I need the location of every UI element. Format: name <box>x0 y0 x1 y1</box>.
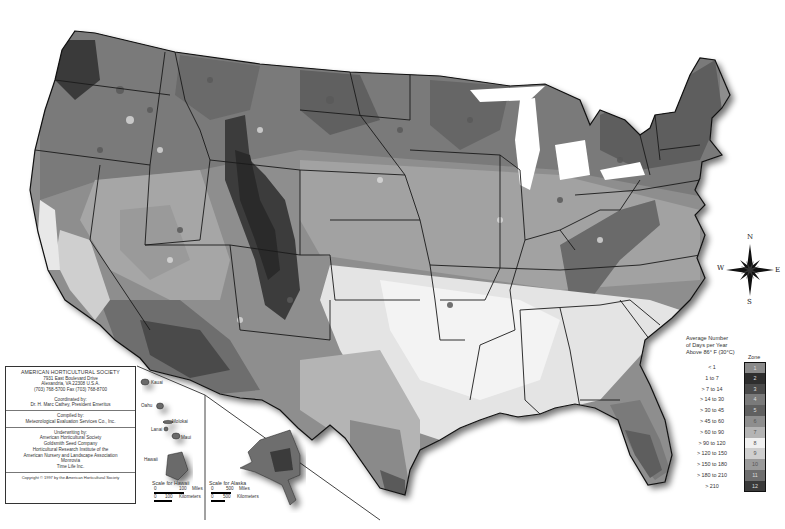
legend-range: > 30 to 45 <box>686 407 738 413</box>
compass-north: N <box>747 233 753 241</box>
legend-row-zone-8: > 90 to 1208 <box>686 438 785 449</box>
compass-south: S <box>747 298 752 306</box>
legend-title-line: Average Number <box>686 335 746 342</box>
legend-title-line: of Days per Year <box>686 342 746 349</box>
legend-swatch: 3 <box>744 384 766 395</box>
legend-row-zone-4: > 14 to 304 <box>686 394 785 405</box>
legend-range: > 60 to 90 <box>686 429 738 435</box>
island-label-maui: Maui <box>181 435 191 440</box>
legend-range: > 90 to 120 <box>686 440 738 446</box>
legend-swatch: 1 <box>744 362 766 373</box>
compiled-by: Meteorological Evaluation Services Co., … <box>8 419 133 425</box>
legend-row-zone-10: > 150 to 18010 <box>686 459 785 470</box>
legend-range: > 45 to 60 <box>686 418 738 424</box>
legend-range: > 150 to 180 <box>686 461 738 467</box>
legend-row-zone-6: > 45 to 606 <box>686 416 785 427</box>
legend-swatch: 10 <box>744 459 766 470</box>
credits-box: AMERICAN HORTICULTURAL SOCIETY 7931 East… <box>5 366 136 504</box>
legend-swatch: 7 <box>744 427 766 438</box>
scale-tick: 500 <box>226 486 234 491</box>
legend-swatch: 11 <box>744 470 766 481</box>
scale-bar <box>211 500 225 502</box>
scale-tick: 0 <box>211 486 214 491</box>
compass-east: E <box>775 266 780 274</box>
legend-range: < 1 <box>686 364 738 370</box>
legend-row-zone-9: > 120 to 1509 <box>686 448 785 459</box>
org-name: AMERICAN HORTICULTURAL SOCIETY <box>8 369 133 376</box>
compass-west: W <box>717 264 724 272</box>
legend-range: > 210 <box>686 483 738 489</box>
legend-swatch: 12 <box>744 481 766 492</box>
legend-row-zone-5: > 30 to 455 <box>686 405 785 416</box>
legend-row-zone-3: > 7 to 143 <box>686 384 785 395</box>
legend-zone-header: Zone <box>748 354 760 360</box>
copyright: Copyright © 1997 by the American Horticu… <box>8 475 133 480</box>
legend-range: > 14 to 30 <box>686 396 738 402</box>
legend-rows: < 111 to 72> 7 to 143> 14 to 304> 30 to … <box>686 362 785 492</box>
legend-title: Average Number of Days per Year Above 86… <box>686 335 746 356</box>
island-label-kauai: Kauai <box>151 380 163 385</box>
coordinated-by: Dr. H. Marc Cathey, President Emeritus <box>8 402 133 408</box>
legend-row-zone-12: > 21012 <box>686 481 785 492</box>
alaska-scale: Scale for Alaska 0 500 Miles 0 500 Kilom… <box>209 480 246 502</box>
island-label-molokai: Molokai <box>172 419 188 424</box>
legend-swatch: 6 <box>744 416 766 427</box>
legend-swatch: 2 <box>744 373 766 384</box>
compass-rose: N S W E <box>720 236 780 304</box>
legend-row-zone-11: > 180 to 21011 <box>686 470 785 481</box>
legend-swatch: 5 <box>744 405 766 416</box>
legend-swatch: 9 <box>744 448 766 459</box>
scale-unit: Kilometers <box>237 494 259 499</box>
scale-tick: 100 <box>179 486 187 491</box>
island-label-oahu: Oahu <box>141 403 152 408</box>
legend-title-line: Above 86° F (30°C) <box>686 349 746 356</box>
scale-tick: 0 <box>154 486 157 491</box>
scale-unit: Kilometers <box>179 494 201 499</box>
scale-tick: 500 <box>223 494 231 499</box>
scale-unit: Miles <box>192 486 203 491</box>
legend-swatch: 4 <box>744 394 766 405</box>
legend-range: > 120 to 150 <box>686 450 738 456</box>
scale-tick: 100 <box>165 494 173 499</box>
island-label-hawaii: Hawaii <box>144 457 158 462</box>
legend-range: > 180 to 210 <box>686 472 738 478</box>
legend-swatch: 8 <box>744 438 766 449</box>
scale-tick: 0 <box>211 494 214 499</box>
island-label-lanai: Lanai <box>151 427 162 432</box>
legend-row-zone-1: < 11 <box>686 362 785 373</box>
hawaii-scale: Scale for Hawaii 0 100 Miles 0 100 Kilom… <box>152 480 189 502</box>
scale-tick: 0 <box>154 494 157 499</box>
scale-bar <box>154 500 172 502</box>
scale-unit: Miles <box>239 486 250 491</box>
compass-star-icon <box>720 236 780 304</box>
legend-range: > 7 to 14 <box>686 386 738 392</box>
zone-legend: Average Number of Days per Year Above 86… <box>686 335 785 356</box>
legend-range: 1 to 7 <box>686 375 738 381</box>
underwriter: Time Life Inc. <box>8 464 133 470</box>
legend-row-zone-2: 1 to 72 <box>686 373 785 384</box>
legend-row-zone-7: > 60 to 907 <box>686 427 785 438</box>
